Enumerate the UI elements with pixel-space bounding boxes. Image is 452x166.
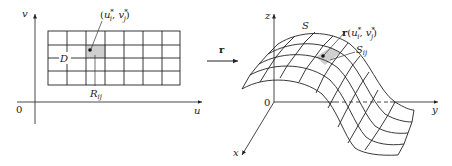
surface-patch-sij	[316, 47, 340, 65]
region-d-label: D	[59, 53, 68, 64]
x-axis	[242, 102, 274, 155]
y-axis-label: y	[431, 104, 438, 115]
subrectangle-label: Rij	[89, 88, 103, 101]
sample-point-label: (u*i, v*j)	[100, 8, 130, 23]
mapping-r: r	[207, 44, 238, 61]
surface-parametrization-diagram: v u 0 D (u*i, v*j) Rij	[0, 0, 452, 166]
image-point-label: r(u*i, v*j)	[342, 26, 377, 41]
mapping-label: r	[219, 44, 225, 55]
origin-label-3d: 0	[264, 97, 270, 108]
v-axis-label: v	[22, 8, 28, 19]
surface-label: S	[302, 20, 309, 31]
uv-plane: v u 0 D (u*i, v*j) Rij	[16, 8, 202, 124]
patch-label: Sij	[356, 44, 368, 57]
u-axis-label: u	[194, 105, 200, 116]
x-axis-label: x	[233, 147, 239, 158]
xyz-space: z y x 0 r(u*i, v*j)	[233, 10, 438, 158]
z-axis-label: z	[264, 10, 271, 21]
origin-label: 0	[16, 104, 22, 115]
